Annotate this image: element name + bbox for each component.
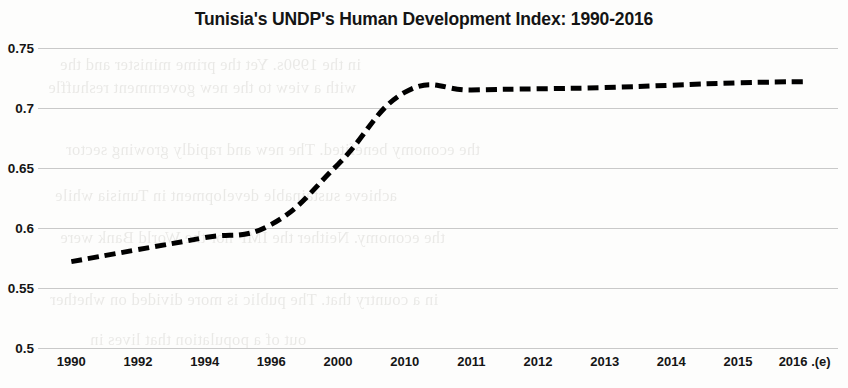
hdi-line-path (71, 82, 804, 262)
x-axis-tick-label: 1994 (190, 354, 219, 369)
x-axis-labels: 1990199219941996200020102011201220132014… (38, 354, 838, 378)
x-axis-tick-label: 1996 (257, 354, 286, 369)
x-axis-tick-label: 2015 (724, 354, 753, 369)
y-axis-tick-label: 0.5 (0, 341, 34, 356)
y-axis-tick-label: 0.75 (0, 41, 34, 56)
x-axis-tick-label: 2011 (457, 354, 485, 369)
x-axis-tick-label: 2016 .(e) (779, 354, 831, 369)
y-axis-tick-label: 0.6 (0, 221, 34, 236)
x-axis-tick-label: 2000 (324, 354, 353, 369)
x-axis-tick-label: 2012 (524, 354, 553, 369)
plot-area (38, 48, 838, 348)
x-axis-tick-label: 1990 (57, 354, 86, 369)
hdi-line-series (38, 48, 838, 348)
x-axis-tick-label: 2010 (390, 354, 419, 369)
gridline (38, 348, 838, 349)
y-axis-tick-label: 0.55 (0, 281, 34, 296)
y-axis-tick-label: 0.65 (0, 161, 34, 176)
chart-title: Tunisia's UNDP's Human Development Index… (0, 9, 848, 30)
x-axis-tick-label: 2014 (657, 354, 686, 369)
x-axis-tick-label: 2013 (590, 354, 619, 369)
chart-container: in the 1990s. Yet the prime minister and… (0, 0, 848, 388)
y-axis-tick-label: 0.7 (0, 101, 34, 116)
x-axis-tick-label: 1992 (124, 354, 153, 369)
